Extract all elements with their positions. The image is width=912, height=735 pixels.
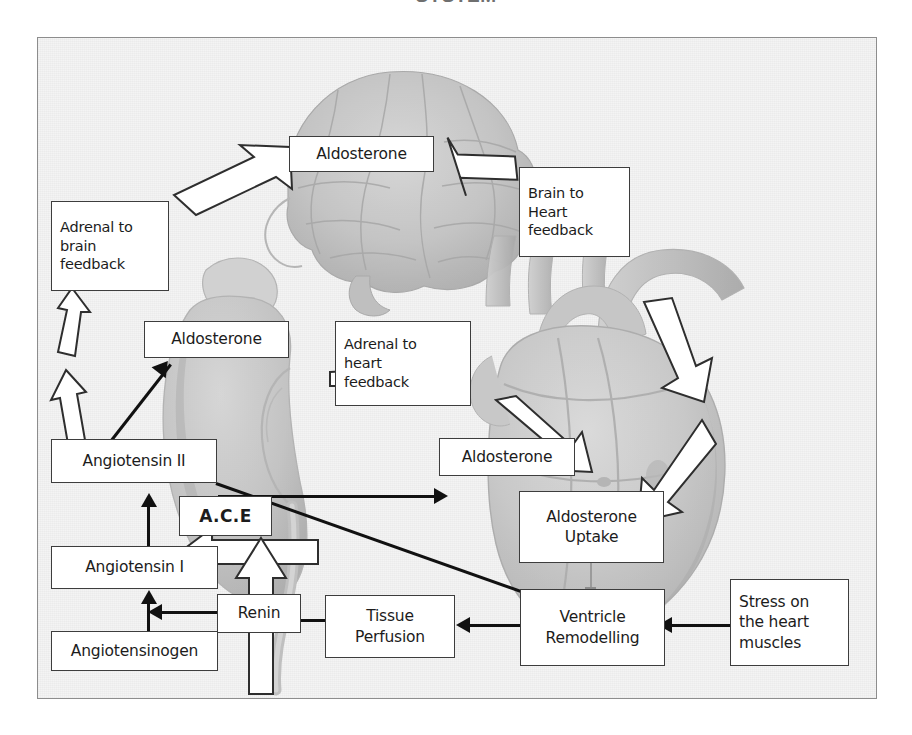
node-label: Aldosterone [462, 447, 553, 467]
node-label: Angiotensinogen [71, 641, 198, 661]
node-tissue-perfusion[interactable]: Tissue Perfusion [325, 595, 455, 658]
node-aldosterone-brain[interactable]: Aldosterone [289, 136, 434, 172]
angiotensinogen-to-angiotensin1-arrowhead [141, 590, 157, 604]
page-title: SYSTEM [0, 0, 912, 7]
ventricle-to-tissue-arrowhead [456, 617, 470, 633]
stress-to-ventricle-line [670, 624, 732, 627]
node-label: Aldosterone [171, 329, 262, 349]
diagram-stage: SYSTEM [0, 0, 912, 735]
node-stress-heart-muscles[interactable]: Stress on the heart muscles [730, 579, 849, 666]
adrenal-to-brain-upper-arrow [48, 286, 92, 358]
node-label: Adrenal to brain feedback [60, 218, 164, 275]
node-brain-to-heart-feedback[interactable]: Brain to Heart feedback [519, 167, 630, 257]
node-label: Ventricle Remodelling [525, 607, 660, 647]
angiotensin2-to-aldosterone-heart-arrowhead [434, 488, 448, 504]
node-aldosterone-uptake[interactable]: Aldosterone Uptake [519, 491, 664, 563]
diagram-panel: Aldosterone Adrenal to brain feedback Br… [37, 37, 877, 699]
node-angiotensinogen[interactable]: Angiotensinogen [51, 631, 218, 671]
angiotensin1-to-angiotensin2-arrowhead [141, 493, 157, 507]
node-label: Adrenal to heart feedback [344, 335, 466, 392]
node-label: A.C.E [199, 505, 251, 527]
brain-heart-descend-arrow-1 [634, 296, 724, 408]
node-angiotensin-1[interactable]: Angiotensin I [51, 546, 218, 589]
node-label: Stress on the heart muscles [739, 592, 844, 652]
adrenal-to-brain-lower-arrow [46, 368, 90, 446]
node-renin[interactable]: Renin [217, 594, 301, 633]
node-ventricle-remodelling[interactable]: Ventricle Remodelling [520, 589, 665, 666]
node-aldosterone-adrenal[interactable]: Aldosterone [144, 321, 289, 358]
node-label: Aldosterone Uptake [524, 507, 659, 547]
node-label: Renin [238, 603, 281, 623]
node-ace[interactable]: A.C.E [179, 496, 272, 536]
node-adrenal-to-brain-feedback[interactable]: Adrenal to brain feedback [51, 201, 169, 291]
node-adrenal-to-heart-feedback[interactable]: Adrenal to heart feedback [335, 321, 471, 406]
renin-to-angiotensin-arrowhead [148, 604, 162, 620]
page-title-strip: SYSTEM [0, 0, 912, 14]
node-aldosterone-heart[interactable]: Aldosterone [439, 438, 575, 476]
node-angiotensin-2[interactable]: Angiotensin II [51, 439, 217, 483]
ventricle-to-tissue-line [468, 624, 520, 627]
node-label: Tissue Perfusion [330, 606, 450, 646]
feedback-to-brain-arrow [170, 143, 296, 219]
node-label: Angiotensin II [83, 451, 186, 471]
node-label: Aldosterone [316, 144, 407, 164]
node-label: Angiotensin I [85, 557, 184, 577]
node-label: Brain to Heart feedback [528, 184, 625, 241]
